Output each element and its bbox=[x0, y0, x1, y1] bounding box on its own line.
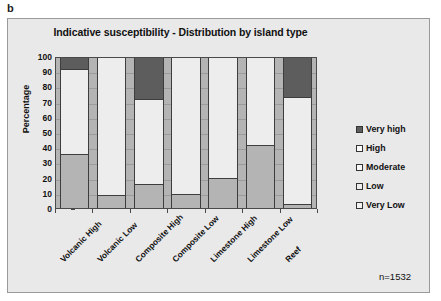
bar-column[interactable] bbox=[283, 58, 312, 208]
legend-item[interactable]: Low bbox=[356, 181, 428, 191]
sample-size-annotation: n=1532 bbox=[379, 271, 411, 282]
legend-label: Low bbox=[366, 181, 384, 191]
bar-segment[interactable] bbox=[209, 178, 236, 208]
x-axis-label-reef: Reef bbox=[283, 244, 303, 264]
y-axis-tick-labels: 0102030405060708090100 bbox=[26, 51, 52, 215]
legend-swatch-icon bbox=[356, 145, 363, 152]
bar-column[interactable] bbox=[134, 58, 163, 208]
x-axis-tick-labels: Volcanic HighVolcanic LowComposite HighC… bbox=[48, 211, 338, 281]
y-axis-tick-80: 80 bbox=[43, 83, 52, 92]
y-axis-tick-70: 70 bbox=[43, 98, 52, 107]
bar-segment[interactable] bbox=[172, 58, 199, 194]
bar-segment[interactable] bbox=[61, 58, 88, 69]
bar-column[interactable] bbox=[60, 58, 89, 208]
y-axis-tick-100: 100 bbox=[38, 53, 52, 62]
bar-column[interactable] bbox=[246, 58, 275, 208]
legend-swatch-icon bbox=[356, 202, 363, 209]
legend-label: High bbox=[366, 143, 386, 153]
bar-column[interactable] bbox=[171, 58, 200, 208]
stacked-bar[interactable] bbox=[208, 58, 237, 208]
bar-segment[interactable] bbox=[135, 99, 162, 185]
y-axis-tick-50: 50 bbox=[43, 129, 52, 138]
stacked-bar[interactable] bbox=[134, 58, 163, 208]
legend-item[interactable]: Very high bbox=[356, 124, 428, 134]
bar-column[interactable] bbox=[97, 58, 126, 208]
bar-segment[interactable] bbox=[61, 154, 88, 208]
bar-segment[interactable] bbox=[135, 184, 162, 208]
bar-segment[interactable] bbox=[98, 195, 125, 208]
y-axis-tick-30: 30 bbox=[43, 159, 52, 168]
stacked-bar[interactable] bbox=[283, 58, 312, 208]
legend-swatch-icon bbox=[356, 164, 363, 171]
bar-segment[interactable] bbox=[98, 58, 125, 195]
stacked-bar[interactable] bbox=[97, 58, 126, 208]
bar-segment[interactable] bbox=[284, 58, 311, 97]
bar-segment[interactable] bbox=[209, 58, 236, 178]
panel-label: b bbox=[7, 2, 14, 14]
legend-item[interactable]: Moderate bbox=[356, 162, 428, 172]
legend-swatch-icon bbox=[356, 126, 363, 133]
bar-segment[interactable] bbox=[284, 97, 311, 204]
bar-group bbox=[56, 58, 316, 208]
bar-segment[interactable] bbox=[247, 58, 274, 145]
legend: Very highHighModerateLowVery Low bbox=[356, 124, 428, 219]
figure-container: Indicative susceptibility - Distribution… bbox=[7, 18, 430, 293]
plot-area bbox=[55, 57, 317, 209]
bar-segment[interactable] bbox=[247, 145, 274, 208]
y-axis-tick-10: 10 bbox=[43, 189, 52, 198]
legend-label: Very Low bbox=[366, 200, 405, 210]
legend-label: Moderate bbox=[366, 162, 405, 172]
bar-segment[interactable] bbox=[135, 58, 162, 99]
bar-column[interactable] bbox=[208, 58, 237, 208]
y-axis-tick-20: 20 bbox=[43, 174, 52, 183]
legend-swatch-icon bbox=[356, 183, 363, 190]
y-axis-tick-40: 40 bbox=[43, 144, 52, 153]
legend-item[interactable]: High bbox=[356, 143, 428, 153]
y-axis-tick-60: 60 bbox=[43, 113, 52, 122]
bar-segment[interactable] bbox=[61, 69, 88, 155]
bar-segment[interactable] bbox=[284, 204, 311, 209]
stacked-bar[interactable] bbox=[171, 58, 200, 208]
chart-title: Indicative susceptibility - Distribution… bbox=[8, 26, 353, 38]
stacked-bar[interactable] bbox=[60, 58, 89, 208]
legend-label: Very high bbox=[366, 124, 406, 134]
legend-item[interactable]: Very Low bbox=[356, 200, 428, 210]
bar-segment[interactable] bbox=[172, 194, 199, 208]
stacked-bar[interactable] bbox=[246, 58, 275, 208]
y-axis-tick-90: 90 bbox=[43, 68, 52, 77]
